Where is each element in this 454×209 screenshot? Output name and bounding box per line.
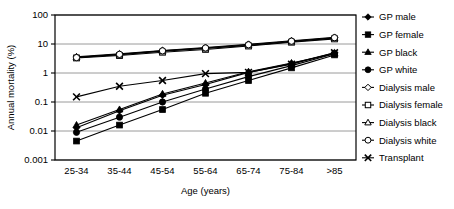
marker-filled-circle	[159, 99, 165, 105]
marker-open-circle	[365, 137, 371, 143]
marker-open-circle	[245, 42, 251, 48]
marker-open-circle	[331, 35, 337, 41]
x-axis-title: Age (years)	[181, 185, 230, 196]
ytick-label-5: 100	[32, 9, 48, 20]
chart-figure: 0.0010.010.111010025-3435-4445-5455-6465…	[0, 0, 454, 209]
marker-filled-circle	[365, 67, 371, 73]
marker-filled-square	[74, 138, 80, 144]
y-axis-title: Annual mortality (%)	[5, 45, 16, 131]
ytick-label-3: 1	[43, 67, 48, 78]
legend-label: Transplant	[379, 152, 424, 163]
marker-filled-circle	[73, 129, 79, 135]
marker-open-circle	[159, 48, 165, 54]
marker-filled-circle	[202, 86, 208, 92]
marker-filled-circle	[116, 114, 122, 120]
xtick-label-3: 55-64	[193, 165, 217, 176]
legend-label: GP white	[379, 64, 417, 75]
legend-label: Dialysis black	[379, 117, 437, 128]
marker-filled-square	[117, 122, 123, 128]
legend-label: GP female	[379, 29, 424, 40]
marker-open-square	[365, 102, 370, 107]
xtick-label-0: 25-34	[64, 165, 88, 176]
marker-open-circle	[288, 38, 294, 44]
ytick-label-1: 0.01	[30, 125, 49, 136]
marker-open-circle	[116, 51, 122, 57]
marker-filled-square	[160, 107, 166, 113]
mortality-line-chart: 0.0010.010.111010025-3435-4445-5455-6465…	[0, 0, 454, 209]
marker-open-circle	[202, 45, 208, 51]
xtick-label-2: 45-54	[150, 165, 174, 176]
xtick-label-1: 35-44	[107, 165, 131, 176]
ytick-label-4: 10	[37, 38, 48, 49]
legend-label: Dialysis white	[379, 135, 437, 146]
chart-canvas: 0.0010.010.111010025-3435-4445-5455-6465…	[0, 0, 454, 209]
xtick-label-4: 65-74	[236, 165, 260, 176]
legend-label: Dialysis male	[379, 82, 435, 93]
legend-label: GP black	[379, 47, 418, 58]
marker-filled-square	[365, 32, 370, 37]
xtick-label-6: >85	[326, 165, 342, 176]
legend-label: Dialysis female	[379, 99, 443, 110]
marker-open-circle	[73, 54, 79, 60]
xtick-label-5: 75-84	[279, 165, 303, 176]
legend-label: GP male	[379, 11, 416, 22]
ytick-label-0: 0.001	[24, 154, 48, 165]
ytick-label-2: 0.1	[35, 96, 48, 107]
